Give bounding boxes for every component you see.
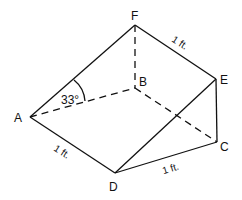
- angle-label: 33°: [61, 93, 79, 107]
- edge-AF: [30, 25, 135, 117]
- prism-diagram: F B E A C D 33° 1 ft. 1 ft. 1 ft.: [0, 0, 242, 200]
- dimension-AD: 1 ft.: [52, 142, 72, 160]
- vertex-label-C: C: [220, 140, 229, 154]
- vertex-label-D: D: [109, 180, 118, 194]
- vertex-label-E: E: [220, 73, 228, 87]
- vertex-label-F: F: [131, 9, 138, 23]
- dimension-DC: 1 ft.: [161, 161, 180, 176]
- diagram-canvas: F B E A C D 33° 1 ft. 1 ft. 1 ft.: [0, 0, 242, 200]
- edge-BC: [135, 88, 217, 142]
- dimension-FE: 1 ft.: [170, 33, 190, 51]
- edge-EC: [216, 79, 217, 142]
- edge-AD: [30, 117, 115, 173]
- vertex-label-B: B: [139, 75, 147, 89]
- vertex-label-A: A: [14, 111, 22, 125]
- edge-DE: [115, 79, 216, 173]
